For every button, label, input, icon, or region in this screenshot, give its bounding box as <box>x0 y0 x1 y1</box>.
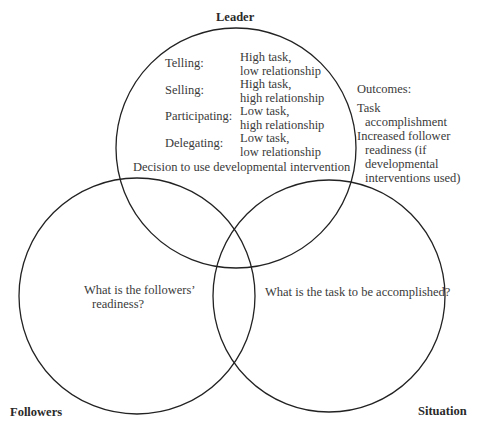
style-selling-desc: High task, high relationship <box>240 77 324 105</box>
style-delegating-desc: Low task, low relationship <box>240 131 321 159</box>
decision-text: Decision to use developmental interventi… <box>133 160 350 174</box>
style-participating-desc: Low task, high relationship <box>240 104 324 132</box>
leader-label: Leader <box>216 10 254 25</box>
style-telling-desc: High task, low relationship <box>240 50 321 78</box>
outcomes-list: Task accomplishment Increased follower r… <box>357 101 460 185</box>
outcomes-title: Outcomes: <box>357 82 411 96</box>
style-delegating: Delegating: <box>165 136 223 150</box>
style-selling: Selling: <box>165 83 204 97</box>
style-telling: Telling: <box>165 56 204 70</box>
venn-circles <box>0 0 477 437</box>
situation-question: What is the task to be accomplished? <box>265 285 450 299</box>
followers-question: What is the followers’ readiness? <box>84 283 195 311</box>
style-participating: Participating: <box>165 109 232 123</box>
situation-label: Situation <box>418 404 467 419</box>
followers-label: Followers <box>10 405 62 420</box>
